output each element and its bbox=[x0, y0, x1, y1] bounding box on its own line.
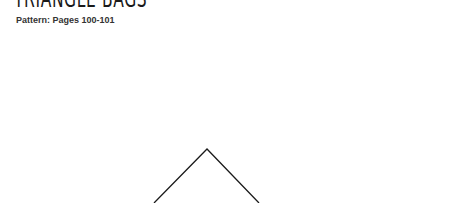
triangle-pattern-outline bbox=[0, 0, 464, 203]
triangle-shape bbox=[154, 149, 259, 203]
